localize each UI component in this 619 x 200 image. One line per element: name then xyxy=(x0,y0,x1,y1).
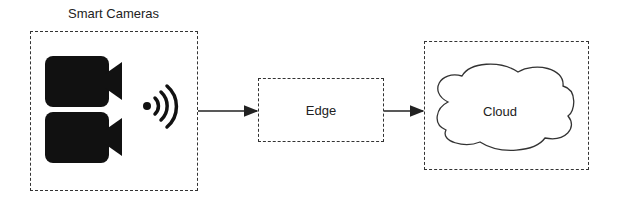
video-camera-icon xyxy=(45,112,122,163)
cloud-label: Cloud xyxy=(460,104,540,119)
wireless-signal-icon xyxy=(143,86,176,127)
video-camera-icon xyxy=(45,56,122,107)
edge-label: Edge xyxy=(258,103,384,118)
